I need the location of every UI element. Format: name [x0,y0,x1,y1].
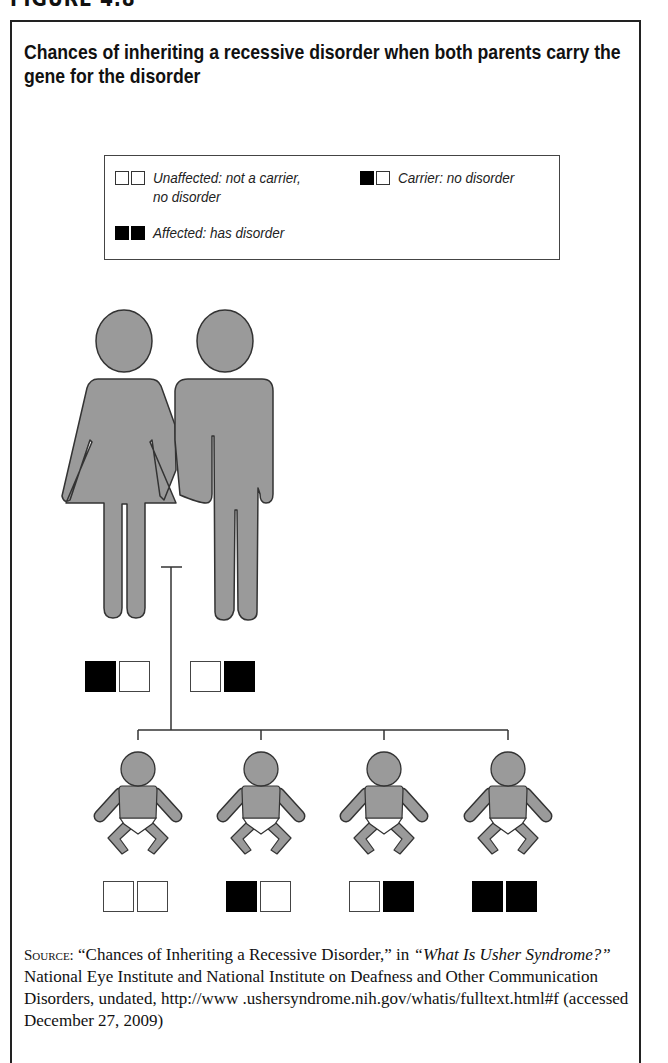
source-italic-title: “What Is Usher Syndrome?” [413,945,610,964]
mother-figure-icon [62,310,176,618]
gene-empty-icon [119,661,150,692]
gene-empty-icon [260,881,291,912]
gene-empty-icon [137,881,168,912]
child-1-baby-icon [100,752,176,854]
child-2-genotype [226,881,291,912]
source-quote-title: “Chances of Inheriting a Recessive Disor… [78,945,413,964]
gene-filled-icon [506,881,537,912]
gene-empty-icon [103,881,134,912]
gene-filled-icon [472,881,503,912]
gene-filled-icon [85,661,116,692]
child-3-baby-icon [346,752,422,854]
source-citation: Source: “Chances of Inheriting a Recessi… [24,944,644,1032]
pedigree-artwork [0,0,668,1063]
source-prefix: Source: [24,947,74,963]
gene-empty-icon [349,881,380,912]
gene-filled-icon [383,881,414,912]
father-genotype [190,661,255,692]
gene-filled-icon [224,661,255,692]
child-2-baby-icon [223,752,299,854]
child-4-genotype [472,881,537,912]
gene-filled-icon [226,881,257,912]
mother-genotype [85,661,150,692]
gene-empty-icon [190,661,221,692]
child-4-baby-icon [470,752,546,854]
source-rest: National Eye Institute and National Inst… [24,967,628,1030]
child-1-genotype [103,881,168,912]
pedigree-connector [138,567,508,740]
father-figure-icon [175,310,273,620]
child-3-genotype [349,881,414,912]
